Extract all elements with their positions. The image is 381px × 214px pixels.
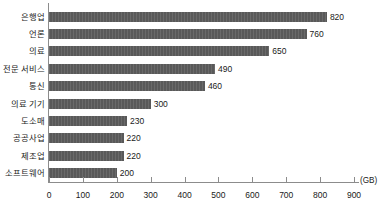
- bar-row: 의료 기기300: [49, 95, 354, 112]
- x-tick-label: 100: [76, 191, 90, 200]
- x-tick-label: 900: [347, 191, 361, 200]
- bar: 650: [49, 46, 269, 56]
- bar-value-label: 220: [127, 134, 141, 143]
- bar: 230: [49, 116, 127, 126]
- category-label: 소프트웨어: [5, 169, 45, 177]
- category-label: 은행업: [21, 13, 45, 21]
- category-label: 언론: [29, 30, 45, 38]
- bar: 490: [49, 64, 215, 74]
- bar-value-label: 650: [272, 47, 286, 56]
- bar-value-label: 220: [127, 152, 141, 161]
- category-label: 통신: [29, 82, 45, 90]
- category-label: 도소매: [21, 117, 45, 125]
- plot-area: 은행업820언론760의료650전문 서비스490통신460의료 기기300도소…: [49, 4, 354, 182]
- bar-rows: 은행업820언론760의료650전문 서비스490통신460의료 기기300도소…: [49, 4, 354, 182]
- bar-row: 도소매230: [49, 112, 354, 129]
- bar: 300: [49, 99, 151, 109]
- bar-value-label: 460: [208, 82, 222, 91]
- bar-value-label: 760: [310, 30, 324, 39]
- category-label: 전문 서비스: [3, 65, 45, 73]
- bar-row: 은행업820: [49, 8, 354, 25]
- bar-row: 언론760: [49, 25, 354, 42]
- x-tick-label: 300: [144, 191, 158, 200]
- bar: 220: [49, 151, 124, 161]
- bar-row: 소프트웨어200: [49, 165, 354, 182]
- bar: 460: [49, 81, 205, 91]
- x-tick-label: 800: [313, 191, 327, 200]
- x-tick-label: 0: [47, 191, 52, 200]
- x-tick-label: 200: [110, 191, 124, 200]
- bar: 220: [49, 133, 124, 143]
- category-label: 제조업: [21, 152, 45, 160]
- bar-chart: 은행업820언론760의료650전문 서비스490통신460의료 기기300도소…: [0, 0, 381, 214]
- x-axis-line: [48, 182, 359, 183]
- bar-value-label: 820: [330, 12, 344, 21]
- bar-row: 전문 서비스490: [49, 60, 354, 77]
- category-label: 의료 기기: [11, 100, 45, 108]
- x-tick-label: 600: [245, 191, 259, 200]
- category-label: 공공사업: [13, 134, 45, 142]
- category-label: 의료: [29, 47, 45, 55]
- bar-value-label: 490: [218, 65, 232, 74]
- bar-row: 통신460: [49, 78, 354, 95]
- bar-row: 공공사업220: [49, 130, 354, 147]
- x-tick-label: 500: [211, 191, 225, 200]
- x-tick-label: 700: [279, 191, 293, 200]
- bar-row: 제조업220: [49, 147, 354, 164]
- x-axis-unit-label: (GB): [360, 177, 377, 185]
- bar: 200: [49, 168, 117, 178]
- bar-row: 의료650: [49, 43, 354, 60]
- bar-value-label: 300: [154, 99, 168, 108]
- bar: 760: [49, 29, 307, 39]
- bar-value-label: 200: [120, 169, 134, 178]
- bar: 820: [49, 12, 327, 22]
- bar-value-label: 230: [130, 117, 144, 126]
- x-tick-label: 400: [177, 191, 191, 200]
